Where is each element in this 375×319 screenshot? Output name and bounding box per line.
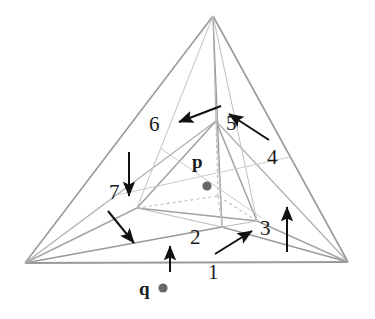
tetrahedron-figure: 1 2 3 4 5 6 7 p q — [0, 0, 375, 319]
region-label-7: 7 — [109, 182, 120, 203]
tetrahedron-diagram — [0, 0, 375, 319]
region-label-5: 5 — [226, 113, 237, 134]
region-label-6: 6 — [149, 114, 160, 135]
point-label-p: p — [192, 152, 203, 171]
region-label-3: 3 — [260, 218, 271, 239]
point-q-dot — [158, 283, 167, 292]
connector-edges — [25, 16, 348, 263]
arrow-to-region-6 — [179, 106, 221, 122]
cell-division-edges — [25, 16, 348, 263]
region-label-4: 4 — [267, 147, 278, 168]
point-p-dot — [202, 181, 211, 190]
region-label-1: 1 — [208, 262, 219, 283]
point-label-q: q — [139, 279, 150, 298]
region-label-2: 2 — [190, 227, 201, 248]
outer-tetrahedron-edges — [25, 16, 348, 263]
arrow-to-region-3 — [215, 231, 252, 254]
